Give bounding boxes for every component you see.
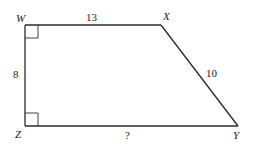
side-xy [161,25,238,126]
side-label-zy: ? [125,129,130,141]
trapezoid-diagram: W X Y Z 13 10 8 ? [0,0,256,147]
side-label-xy: 10 [206,67,218,79]
right-angle-marker-z [25,113,38,126]
right-angle-marker-w [25,25,38,38]
vertex-label-y: Y [233,129,241,141]
side-label-wx: 13 [86,11,98,23]
vertex-label-x: X [162,10,171,22]
side-label-wz: 8 [13,68,19,80]
vertex-label-z: Z [15,128,22,140]
vertex-label-w: W [16,12,26,24]
